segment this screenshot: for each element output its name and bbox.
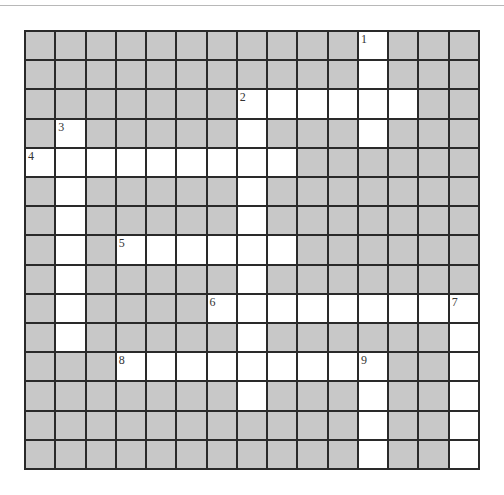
crossword-cell-block — [26, 382, 54, 409]
crossword-cell-open[interactable] — [56, 149, 84, 176]
crossword-cell-block — [238, 61, 266, 88]
clue-number: 6 — [210, 296, 216, 308]
crossword-cell-open[interactable] — [117, 149, 145, 176]
crossword-cell-block — [26, 266, 54, 293]
crossword-cell-block — [117, 90, 145, 117]
crossword-cell-block — [117, 32, 145, 59]
crossword-cell-open[interactable] — [177, 149, 205, 176]
crossword-cell-open[interactable]: 4 — [26, 149, 54, 176]
crossword-cell-open[interactable] — [238, 149, 266, 176]
crossword-cell-open[interactable] — [450, 353, 478, 380]
crossword-cell-block — [208, 412, 236, 439]
crossword-cell-block — [87, 236, 115, 263]
crossword-cell-open[interactable] — [268, 295, 296, 322]
crossword-cell-open[interactable] — [298, 295, 326, 322]
crossword-cell-block — [177, 441, 205, 468]
crossword-cell-block — [389, 149, 417, 176]
crossword-cell-open[interactable] — [56, 236, 84, 263]
crossword-cell-open[interactable]: 2 — [238, 90, 266, 117]
crossword-cell-block — [147, 412, 175, 439]
top-divider — [0, 5, 504, 6]
crossword-cell-block — [147, 61, 175, 88]
crossword-cell-open[interactable] — [329, 295, 357, 322]
crossword-cell-block — [419, 207, 447, 234]
crossword-cell-open[interactable] — [87, 149, 115, 176]
crossword-cell-open[interactable] — [450, 324, 478, 351]
crossword-cell-block — [56, 90, 84, 117]
crossword-cell-open[interactable] — [238, 207, 266, 234]
crossword-cell-open[interactable]: 5 — [117, 236, 145, 263]
crossword-cell-open[interactable] — [450, 441, 478, 468]
crossword-cell-open[interactable] — [268, 90, 296, 117]
crossword-cell-block — [177, 61, 205, 88]
crossword-cell-open[interactable] — [147, 236, 175, 263]
crossword-cell-open[interactable]: 1 — [359, 32, 387, 59]
crossword-cell-open[interactable]: 3 — [56, 120, 84, 147]
crossword-cell-block — [56, 441, 84, 468]
crossword-cell-open[interactable]: 9 — [359, 353, 387, 380]
crossword-cell-open[interactable] — [56, 207, 84, 234]
crossword-cell-open[interactable] — [359, 441, 387, 468]
crossword-cell-block — [177, 266, 205, 293]
crossword-cell-open[interactable] — [177, 236, 205, 263]
crossword-cell-open[interactable] — [56, 266, 84, 293]
crossword-cell-open[interactable]: 6 — [208, 295, 236, 322]
crossword-cell-block — [117, 441, 145, 468]
crossword-cell-open[interactable] — [359, 90, 387, 117]
crossword-cell-block — [208, 61, 236, 88]
crossword-cell-open[interactable] — [389, 295, 417, 322]
crossword-cell-block — [117, 412, 145, 439]
crossword-cell-open[interactable] — [450, 382, 478, 409]
crossword-cell-open[interactable] — [238, 382, 266, 409]
crossword-cell-open[interactable] — [177, 353, 205, 380]
crossword-cell-open[interactable] — [419, 295, 447, 322]
clue-number: 2 — [240, 91, 246, 103]
crossword-cell-open[interactable] — [147, 149, 175, 176]
clue-number: 3 — [58, 121, 64, 133]
crossword-cell-block — [329, 61, 357, 88]
crossword-cell-open[interactable] — [298, 90, 326, 117]
crossword-cell-block — [177, 32, 205, 59]
crossword-cell-block — [87, 324, 115, 351]
crossword-cell-open[interactable] — [238, 295, 266, 322]
crossword-cell-block — [87, 412, 115, 439]
crossword-cell-block — [26, 178, 54, 205]
crossword-cell-block — [329, 149, 357, 176]
crossword-cell-block — [26, 324, 54, 351]
crossword-cell-open[interactable] — [298, 353, 326, 380]
crossword-cell-open[interactable] — [268, 353, 296, 380]
crossword-cell-open[interactable] — [450, 412, 478, 439]
crossword-cell-open[interactable] — [329, 353, 357, 380]
crossword-cell-open[interactable] — [238, 178, 266, 205]
crossword-cell-open[interactable] — [359, 382, 387, 409]
crossword-cell-open[interactable] — [56, 324, 84, 351]
crossword-cell-open[interactable] — [238, 324, 266, 351]
crossword-cell-block — [177, 178, 205, 205]
crossword-cell-open[interactable] — [238, 120, 266, 147]
crossword-cell-open[interactable]: 8 — [117, 353, 145, 380]
crossword-cell-open[interactable] — [359, 412, 387, 439]
crossword-cell-block — [389, 236, 417, 263]
crossword-cell-open[interactable] — [208, 149, 236, 176]
crossword-cell-block — [87, 120, 115, 147]
crossword-cell-block — [450, 90, 478, 117]
crossword-cell-open[interactable] — [238, 266, 266, 293]
crossword-cell-open[interactable] — [208, 353, 236, 380]
crossword-cell-block — [389, 266, 417, 293]
crossword-cell-open[interactable] — [359, 120, 387, 147]
crossword-cell-open[interactable] — [208, 236, 236, 263]
crossword-cell-open[interactable] — [56, 295, 84, 322]
crossword-cell-open[interactable] — [268, 236, 296, 263]
crossword-cell-open[interactable] — [329, 90, 357, 117]
crossword-cell-open[interactable] — [359, 295, 387, 322]
crossword-cell-block — [268, 120, 296, 147]
crossword-cell-open[interactable] — [56, 178, 84, 205]
crossword-cell-open[interactable] — [147, 353, 175, 380]
crossword-cell-open[interactable] — [238, 236, 266, 263]
crossword-cell-block — [177, 382, 205, 409]
crossword-cell-open[interactable] — [268, 149, 296, 176]
crossword-cell-open[interactable] — [238, 353, 266, 380]
crossword-cell-open[interactable] — [389, 90, 417, 117]
crossword-cell-open[interactable] — [359, 61, 387, 88]
crossword-cell-open[interactable]: 7 — [450, 295, 478, 322]
